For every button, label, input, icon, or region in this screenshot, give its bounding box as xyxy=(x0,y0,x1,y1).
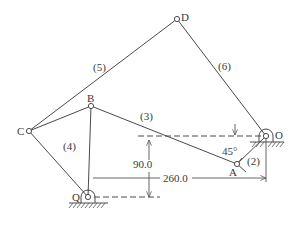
joint-o xyxy=(263,133,268,138)
joint-q xyxy=(85,194,90,199)
label-link-3: (3) xyxy=(140,110,153,123)
label-b: B xyxy=(87,92,94,104)
angle-label: 45° xyxy=(222,145,237,157)
dim-horizontal-label: 260.0 xyxy=(163,172,188,184)
joint-b xyxy=(88,103,93,108)
label-link-2: (2) xyxy=(247,155,260,168)
label-q: Q xyxy=(72,191,80,203)
label-a: A xyxy=(229,166,237,178)
link-4 xyxy=(29,131,88,197)
link-3 xyxy=(91,106,237,164)
label-c: C xyxy=(17,125,24,137)
link-b-q xyxy=(88,106,91,197)
dim-vertical-label: 90.0 xyxy=(133,158,153,170)
label-link-6: (6) xyxy=(218,60,231,73)
linkage-diagram: 90.0 260.0 45° xyxy=(0,0,299,225)
joint-c xyxy=(26,128,31,133)
label-d: D xyxy=(181,11,189,23)
label-link-4: (4) xyxy=(63,140,76,153)
link-5 xyxy=(29,19,177,131)
link-c-b-upper xyxy=(29,106,91,131)
joint-d xyxy=(174,16,179,21)
label-link-5: (5) xyxy=(93,61,106,74)
link-6 xyxy=(177,19,266,136)
label-o: O xyxy=(275,129,283,141)
